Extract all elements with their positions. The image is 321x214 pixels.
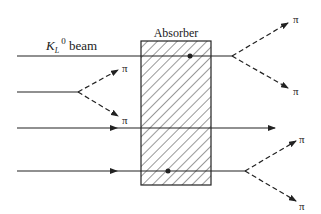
absorber-label: Absorber xyxy=(154,26,199,40)
pion-track-up xyxy=(78,70,118,92)
pion-track-up xyxy=(245,141,296,171)
pion-label: π xyxy=(299,133,305,145)
pion-label: π xyxy=(299,200,305,212)
pion-track-up xyxy=(232,23,288,56)
beam-label: KL0 beam xyxy=(45,36,97,55)
diagram-canvas: Absorber KL0 beam π π π π xyxy=(0,0,321,214)
absorber xyxy=(141,41,211,185)
pion-label: π xyxy=(122,114,128,126)
beam-2 xyxy=(17,70,118,116)
pion-label: π xyxy=(293,13,299,25)
decay-vertex-dot xyxy=(166,169,171,174)
pion-track-down xyxy=(245,171,296,201)
decay-vertex-dot xyxy=(188,54,193,59)
pion-label: π xyxy=(293,85,299,97)
kaon-regeneration-diagram: Absorber KL0 beam π π π π xyxy=(0,0,321,214)
pion-track-down xyxy=(232,56,288,88)
pion-track-down xyxy=(78,92,118,116)
pion-label: π xyxy=(122,62,128,74)
